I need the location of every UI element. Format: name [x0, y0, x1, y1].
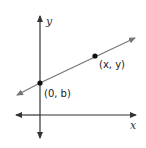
point-label-xy: (x, y) [99, 59, 125, 70]
x-axis-label: x [130, 119, 137, 132]
coordinate-diagram: y x (0, b) (x, y) [0, 0, 146, 148]
sloped-line-back [17, 83, 40, 95]
point-y-intercept [37, 80, 42, 85]
point-label-y-intercept: (0, b) [44, 88, 71, 99]
point-xy [92, 53, 97, 58]
y-axis-label: y [45, 15, 53, 28]
